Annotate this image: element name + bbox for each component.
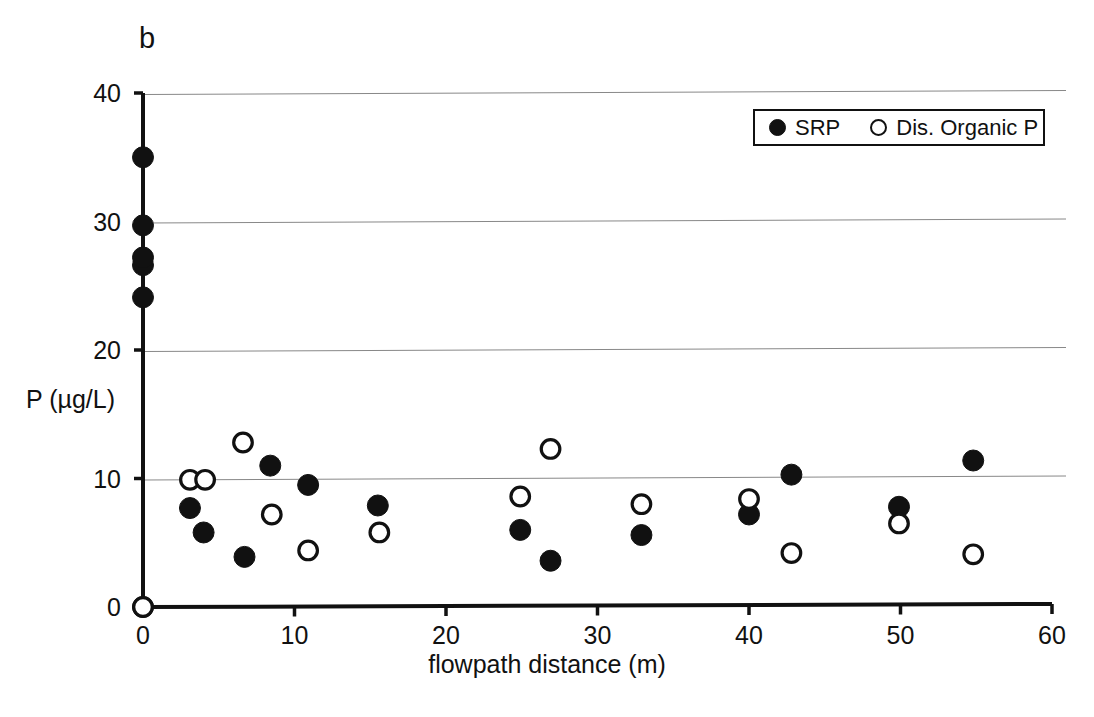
data-point-open: [262, 505, 281, 524]
x-tick-label: 40: [735, 621, 763, 650]
data-point-filled: [367, 495, 388, 516]
data-point-filled: [133, 215, 154, 236]
data-point-open: [782, 544, 801, 563]
legend-label-dis-organic-p: Dis. Organic P: [896, 115, 1038, 141]
data-point-filled: [631, 525, 652, 546]
y-tick-label: 40: [33, 79, 121, 108]
data-point-open: [740, 490, 759, 509]
gridline: [143, 348, 1066, 352]
axis-ticks: [134, 93, 1052, 617]
data-point-filled: [781, 464, 802, 485]
data-point-open: [632, 495, 651, 514]
x-tick-label: 20: [432, 621, 460, 650]
data-point-open: [964, 545, 983, 564]
x-tick-label: 50: [887, 621, 915, 650]
legend-label-srp: SRP: [795, 115, 840, 141]
x-tick-label: 0: [136, 621, 150, 650]
data-point-filled: [193, 522, 214, 543]
gridlines: [143, 91, 1066, 481]
y-tick-label: 10: [33, 464, 121, 493]
data-point-open: [234, 433, 253, 452]
data-point-filled: [963, 450, 984, 471]
legend-entry-srp: SRP: [769, 115, 840, 141]
data-point-filled: [260, 455, 281, 476]
data-point-filled: [234, 546, 255, 567]
scatter-plot-figure: b P (µg/L) flowpath distance (m) 0102030…: [0, 0, 1094, 717]
data-point-open: [370, 523, 389, 542]
legend: SRP Dis. Organic P: [753, 109, 1045, 146]
x-axis-label: flowpath distance (m): [0, 650, 1094, 679]
data-point-open: [890, 514, 909, 533]
plot-canvas: [0, 0, 1094, 717]
data-point-filled: [133, 147, 154, 168]
filled-circle-icon: [769, 119, 786, 136]
gridline: [143, 91, 1066, 95]
data-point-filled: [179, 498, 200, 519]
data-point-open: [196, 470, 215, 489]
y-tick-label: 30: [33, 207, 121, 236]
x-tick-label: 60: [1038, 621, 1066, 650]
y-tick-label: 0: [33, 593, 121, 622]
y-tick-label: 20: [33, 336, 121, 365]
y-axis-label: P (µg/L): [26, 385, 115, 414]
open-circle-icon: [870, 119, 887, 136]
x-tick-label: 30: [584, 621, 612, 650]
legend-entry-dis-organic-p: Dis. Organic P: [870, 115, 1038, 141]
series-srp: [133, 147, 984, 618]
data-point-filled: [133, 247, 154, 268]
data-point-filled: [540, 550, 561, 571]
data-point-open: [511, 487, 530, 506]
gridline: [143, 219, 1066, 223]
data-point-open: [134, 598, 153, 617]
data-point-open: [299, 541, 318, 560]
data-point-filled: [510, 519, 531, 540]
gridline: [143, 476, 1066, 480]
data-point-filled: [133, 287, 154, 308]
x-tick-label: 10: [281, 621, 309, 650]
data-point-open: [541, 440, 560, 459]
data-point-filled: [298, 474, 319, 495]
